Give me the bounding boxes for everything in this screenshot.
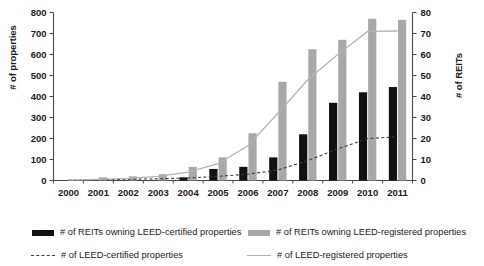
bar (269, 157, 277, 180)
legend-item-1: # of REITs owning LEED-registered proper… (248, 228, 466, 237)
legend-label-2: # of LEED-certified properties (61, 251, 183, 260)
legend-item-3: # of LEED-registered properties (247, 251, 408, 260)
line-series (68, 137, 397, 180)
bar (308, 49, 316, 180)
bar (368, 19, 376, 181)
chart-figure: # of properties # of REITs 0100200300400… (0, 0, 484, 266)
legend-item-2: # of LEED-certified properties (31, 251, 183, 260)
bar (239, 167, 247, 181)
legend-label-0: # of REITs owning LEED-certified propert… (60, 228, 241, 237)
line-series (68, 31, 397, 180)
gray-bar-swatch-icon (248, 230, 270, 236)
bar (338, 40, 346, 181)
dashed-line-swatch-icon (31, 255, 55, 256)
bar (359, 92, 367, 180)
solid-gray-line-swatch-icon (247, 255, 271, 256)
bar (389, 87, 397, 180)
bar (189, 167, 197, 181)
bar (299, 134, 307, 180)
legend-item-0: # of REITs owning LEED-certified propert… (32, 228, 241, 237)
bar (278, 82, 286, 181)
bar (398, 20, 406, 181)
legend-label-3: # of LEED-registered properties (277, 251, 408, 260)
bar (329, 103, 337, 181)
bar (209, 169, 217, 181)
black-bar-swatch-icon (32, 230, 54, 236)
legend-label-1: # of REITs owning LEED-registered proper… (276, 228, 466, 237)
